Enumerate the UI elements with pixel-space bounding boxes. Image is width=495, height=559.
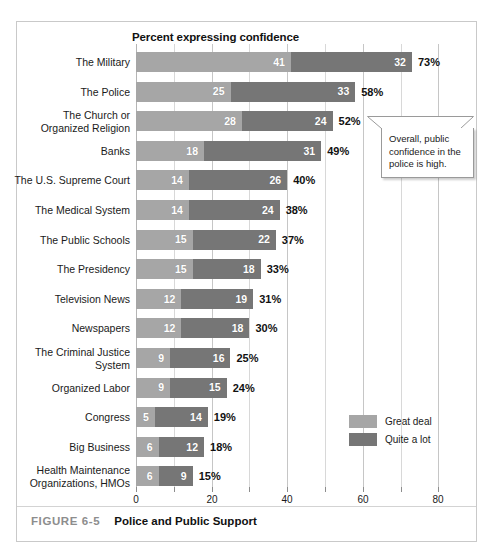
gridline-80: [438, 44, 439, 487]
figure-caption: FIGURE 6-5 Police and Public Support: [31, 515, 257, 527]
x-axis-tick-10: [174, 487, 175, 492]
bar-value-great-deal: 9: [158, 353, 170, 364]
bar-value-great-deal: 18: [186, 146, 204, 157]
bar-segment-quite-a-lot: 19: [181, 289, 253, 309]
category-label: Big Business: [0, 441, 130, 454]
x-axis-label-80: 80: [432, 494, 443, 505]
x-axis-tick-20: [212, 487, 213, 492]
x-axis-label-40: 40: [281, 494, 292, 505]
bar-total-label: 33%: [261, 263, 289, 275]
chart-row: The Medical System142438%: [136, 200, 280, 220]
bar-segment-quite-a-lot: 33: [231, 82, 356, 102]
bar-segment-quite-a-lot: 32: [291, 52, 412, 72]
bar-total-label: 38%: [280, 204, 308, 216]
caption-divider: [17, 506, 476, 507]
bar-total-label: 58%: [355, 86, 383, 98]
legend-swatch-icon-quite-a-lot: [349, 433, 377, 446]
category-label: Health Maintenance Organizations, HMOs: [0, 464, 130, 489]
chart-row: The U.S. Supreme Court142640%: [136, 170, 287, 190]
bar-segment-great-deal: 14: [136, 200, 189, 220]
bar-value-quite-a-lot: 33: [338, 86, 356, 97]
bar-segment-great-deal: 5: [136, 407, 155, 427]
figure-title: Police and Public Support: [114, 515, 257, 527]
bar-total-label: 52%: [333, 115, 361, 127]
bar-value-quite-a-lot: 12: [186, 442, 204, 453]
bar-segment-great-deal: 15: [136, 259, 193, 279]
chart-row: Big Business61218%: [136, 437, 204, 457]
bar-segment-great-deal: 28: [136, 111, 242, 131]
bar-segment-great-deal: 12: [136, 318, 181, 338]
bar-segment-great-deal: 6: [136, 466, 159, 486]
chart-legend: Great deal Quite a lot: [349, 415, 432, 451]
bar-segment-quite-a-lot: 16: [170, 348, 230, 368]
bar-value-great-deal: 9: [158, 382, 170, 393]
bar-segment-quite-a-lot: 18: [193, 259, 261, 279]
bar-value-great-deal: 14: [171, 175, 189, 186]
bar-value-quite-a-lot: 16: [213, 353, 231, 364]
bar-segment-quite-a-lot: 26: [189, 170, 287, 190]
bar-segment-great-deal: 15: [136, 230, 193, 250]
bar-value-quite-a-lot: 22: [258, 234, 276, 245]
bar-segment-quite-a-lot: 18: [181, 318, 249, 338]
bar-value-great-deal: 15: [175, 264, 193, 275]
category-label: The Police: [0, 85, 130, 98]
legend-item-quite-a-lot: Quite a lot: [349, 433, 432, 446]
bar-total-label: 37%: [276, 234, 304, 246]
bar-segment-great-deal: 25: [136, 82, 231, 102]
bar-segment-great-deal: 9: [136, 348, 170, 368]
bar-total-label: 25%: [231, 352, 259, 364]
category-label: Television News: [0, 293, 130, 306]
category-label: The Medical System: [0, 204, 130, 217]
bar-segment-great-deal: 9: [136, 378, 170, 398]
category-label: The Presidency: [0, 263, 130, 276]
bar-segment-great-deal: 14: [136, 170, 189, 190]
bar-segment-great-deal: 41: [136, 52, 291, 72]
bar-segment-quite-a-lot: 14: [155, 407, 208, 427]
category-label: The Criminal Justice System: [0, 346, 130, 371]
bar-segment-quite-a-lot: 12: [159, 437, 204, 457]
legend-label-great-deal: Great deal: [385, 416, 432, 427]
bar-total-label: 15%: [193, 470, 221, 482]
bar-segment-quite-a-lot: 9: [159, 466, 193, 486]
bar-value-great-deal: 25: [213, 86, 231, 97]
category-label: Congress: [0, 411, 130, 424]
chart-row: Health Maintenance Organizations, HMOs69…: [136, 466, 193, 486]
bar-total-label: 24%: [227, 382, 255, 394]
bar-value-quite-a-lot: 18: [232, 323, 250, 334]
callout-text: Overall, public confidence in the police…: [381, 128, 474, 178]
bar-value-quite-a-lot: 26: [269, 175, 287, 186]
bar-total-label: 18%: [204, 441, 232, 453]
category-label: The Church or Organized Religion: [0, 109, 130, 134]
bar-segment-quite-a-lot: 22: [193, 230, 276, 250]
bar-value-quite-a-lot: 24: [315, 116, 333, 127]
bar-segment-great-deal: 12: [136, 289, 181, 309]
figure-container: Percent expressing confidence The Milita…: [0, 0, 495, 559]
category-label: The Public Schools: [0, 233, 130, 246]
legend-label-quite-a-lot: Quite a lot: [385, 434, 431, 445]
x-axis-tick-40: [287, 487, 288, 492]
chart-plot-area: Percent expressing confidence The Milita…: [0, 0, 495, 559]
chart-row: The Public Schools152237%: [136, 230, 276, 250]
bar-value-quite-a-lot: 32: [394, 57, 412, 68]
category-label: The Military: [0, 56, 130, 69]
bar-value-quite-a-lot: 15: [209, 382, 227, 393]
bar-value-great-deal: 41: [273, 57, 291, 68]
callout-pointer-icon: [367, 116, 474, 128]
chart-row: The Military413273%: [136, 52, 412, 72]
bar-value-great-deal: 15: [175, 234, 193, 245]
chart-row: The Church or Organized Religion282452%: [136, 111, 333, 131]
figure-number: FIGURE 6-5: [31, 515, 100, 527]
bar-total-label: 19%: [208, 411, 236, 423]
chart-row: The Criminal Justice System91625%: [136, 348, 231, 368]
x-axis-tick-0: [136, 487, 137, 492]
bar-segment-quite-a-lot: 15: [170, 378, 227, 398]
chart-row: Television News121931%: [136, 289, 253, 309]
bar-total-label: 30%: [249, 322, 277, 334]
legend-item-great-deal: Great deal: [349, 415, 432, 428]
x-axis-tick-60: [363, 487, 364, 492]
chart-row: Banks183149%: [136, 141, 321, 161]
legend-swatch-icon-great-deal: [349, 415, 377, 428]
bar-value-great-deal: 6: [147, 442, 159, 453]
bar-value-quite-a-lot: 19: [235, 294, 253, 305]
bar-segment-quite-a-lot: 24: [242, 111, 333, 131]
